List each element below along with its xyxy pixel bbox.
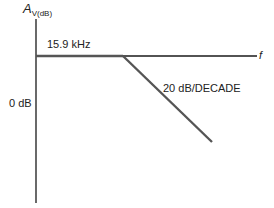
x-axis-label: f	[259, 49, 262, 61]
bode-plot	[0, 0, 274, 208]
cutoff-frequency-label: 15.9 kHz	[47, 38, 90, 50]
slope-label: 20 dB/DECADE	[163, 82, 241, 94]
rolloff-line	[123, 56, 212, 142]
y-axis-label: AV(dB)	[23, 1, 52, 18]
zero-db-label: 0 dB	[9, 97, 32, 109]
